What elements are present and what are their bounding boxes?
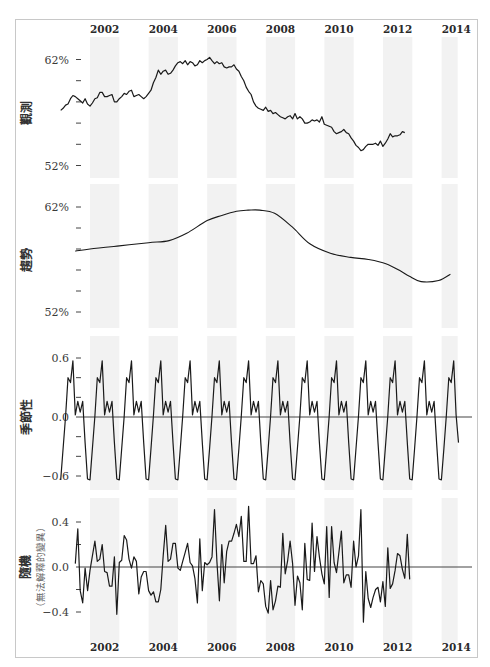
year-band: [90, 184, 119, 328]
year-tick-label: 2008: [266, 641, 295, 653]
year-band: [207, 184, 236, 328]
y-tick-label: 0.6: [52, 352, 70, 365]
y-tick-label: 52%: [45, 306, 69, 319]
y-tick-label: −0.4: [42, 606, 69, 619]
year-tick-label: 2014: [442, 641, 471, 653]
year-band: [383, 184, 412, 328]
year-band: [442, 498, 458, 643]
year-band: [266, 37, 295, 178]
year-band: [149, 498, 178, 643]
year-tick-label: 2006: [207, 641, 236, 653]
panel-ylabel: 趨勢: [19, 248, 34, 273]
year-band: [383, 37, 412, 178]
year-band: [442, 184, 458, 328]
y-tick-label: 0.4: [52, 516, 70, 529]
top-year-axis: 2002200420062008201020122014: [90, 23, 471, 35]
year-band: [442, 37, 458, 178]
y-tick-label: 0.0: [52, 561, 70, 574]
y-tick-label: 52%: [45, 160, 69, 173]
panel-ylabel: 季節性: [19, 399, 34, 436]
year-band: [149, 37, 178, 178]
year-tick-label: 2012: [383, 641, 412, 653]
y-tick-label: −0.6: [42, 470, 69, 483]
bottom-year-axis: 2002200420062008201020122014: [90, 641, 471, 653]
year-tick-label: 2004: [149, 641, 178, 653]
year-shading-bands: [90, 37, 458, 643]
panel-ylabel: 觀測: [19, 101, 34, 125]
series-line-random: [75, 506, 409, 622]
y-tick-label: 62%: [45, 201, 69, 214]
year-band: [207, 37, 236, 178]
year-tick-label: 2002: [90, 641, 119, 653]
year-tick-label: 2010: [324, 23, 353, 35]
y-tick-label: 62%: [45, 54, 69, 67]
year-tick-label: 2002: [90, 23, 119, 35]
year-band: [324, 184, 353, 328]
decomposition-chart: 2002200420062008201020122014 20022004200…: [0, 0, 490, 667]
year-band: [442, 336, 458, 490]
year-tick-label: 2008: [266, 23, 295, 35]
year-tick-label: 2014: [442, 23, 471, 35]
year-tick-label: 2012: [383, 23, 412, 35]
year-band: [266, 498, 295, 643]
year-tick-label: 2004: [149, 23, 178, 35]
year-band: [324, 37, 353, 178]
year-tick-label: 2010: [324, 641, 353, 653]
year-band: [90, 37, 119, 178]
year-band: [266, 184, 295, 328]
panel-ylabel-sub: （無法解釋的變異）: [35, 522, 46, 612]
year-band: [207, 498, 236, 643]
year-band: [149, 184, 178, 328]
panel-ylabel: 隨機: [18, 555, 33, 579]
year-tick-label: 2006: [207, 23, 236, 35]
